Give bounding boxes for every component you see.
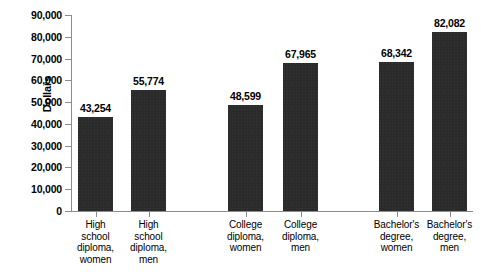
- x-axis-tick-mark: [246, 212, 247, 217]
- y-axis-tick-label: 10,000: [10, 184, 62, 194]
- x-axis-category-line: men: [418, 242, 481, 254]
- y-axis-tick-label: 40,000: [10, 119, 62, 129]
- y-axis-tick-label: 90,000: [10, 10, 62, 20]
- bar-value-label: 67,965: [271, 48, 331, 60]
- y-axis-tick-mark: [65, 189, 71, 190]
- bar: [379, 62, 414, 211]
- x-axis-category-line: diploma,: [269, 231, 333, 243]
- y-axis-tick-label: 80,000: [10, 32, 62, 42]
- bar-value-label: 82,082: [420, 17, 480, 29]
- y-axis-tick-mark: [65, 124, 71, 125]
- bar: [228, 105, 263, 211]
- y-axis-tick-mark: [65, 211, 71, 212]
- x-axis-category-line: degree,: [418, 231, 481, 243]
- bar-chart: Dollars 90,00080,00070,00060,00050,00040…: [0, 0, 481, 275]
- y-axis-tick-labels: 90,00080,00070,00060,00050,00040,00030,0…: [0, 0, 62, 275]
- bar-value-label: 55,774: [119, 75, 179, 87]
- x-axis-tick-mark: [96, 212, 97, 217]
- x-axis-category-line: diploma,: [117, 242, 181, 254]
- bar: [283, 63, 318, 211]
- x-axis-category-line: High: [117, 219, 181, 231]
- x-axis-category-line: College: [269, 219, 333, 231]
- y-axis-tick-mark: [65, 80, 71, 81]
- x-axis-tick-mark: [450, 212, 451, 217]
- x-axis-category-line: men: [117, 254, 181, 266]
- x-axis-tick-mark: [149, 212, 150, 217]
- x-axis-category-line: Bachelor's: [418, 219, 481, 231]
- y-axis-tick-label: 60,000: [10, 75, 62, 85]
- y-axis-tick-label: 50,000: [10, 97, 62, 107]
- x-axis-category-label: Collegediploma,men: [269, 219, 333, 254]
- bar-value-label: 43,254: [66, 102, 126, 114]
- y-axis-tick-mark: [65, 146, 71, 147]
- x-axis-category-label: Highschooldiploma,men: [117, 219, 181, 265]
- y-axis-tick-mark: [65, 102, 71, 103]
- y-axis-tick-mark: [65, 167, 71, 168]
- x-axis-category-line: school: [117, 231, 181, 243]
- bar: [78, 117, 113, 211]
- y-axis-tick-label: 30,000: [10, 141, 62, 151]
- y-axis-tick-mark: [65, 15, 71, 16]
- bar-value-label: 68,342: [367, 47, 427, 59]
- y-axis-tick-mark: [65, 37, 71, 38]
- y-axis-tick-label: 70,000: [10, 54, 62, 64]
- y-axis-tick-mark: [65, 59, 71, 60]
- x-axis-category-line: men: [269, 242, 333, 254]
- x-axis-line: [71, 211, 473, 212]
- x-axis-category-label: Bachelor'sdegree,men: [418, 219, 481, 254]
- y-axis-tick-label: 20,000: [10, 162, 62, 172]
- bar: [432, 32, 467, 211]
- bar-value-label: 48,599: [216, 90, 276, 102]
- x-axis-tick-mark: [397, 212, 398, 217]
- bar: [131, 90, 166, 211]
- x-axis-tick-mark: [301, 212, 302, 217]
- y-axis-tick-label: 0: [10, 206, 62, 216]
